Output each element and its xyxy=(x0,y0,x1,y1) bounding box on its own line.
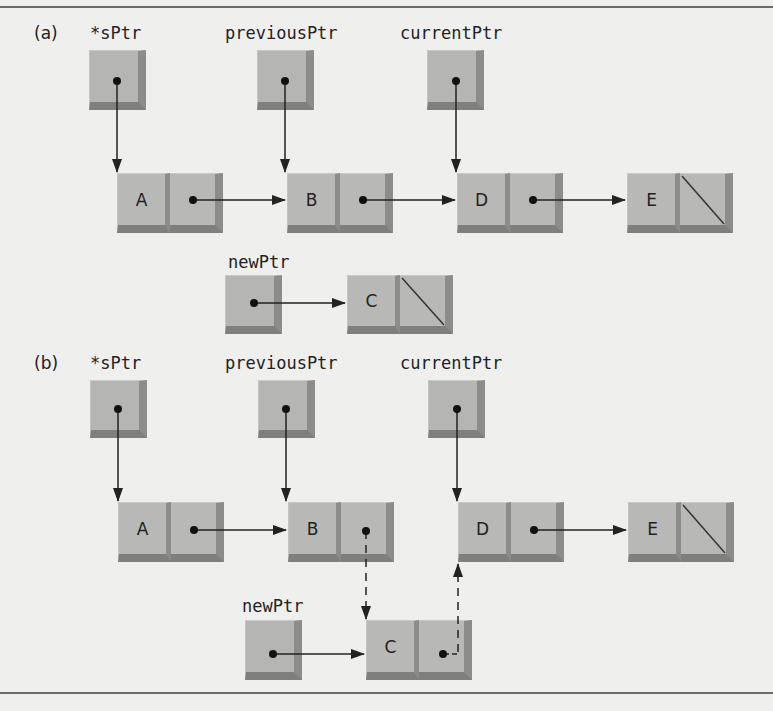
connector-arrows xyxy=(0,0,773,711)
